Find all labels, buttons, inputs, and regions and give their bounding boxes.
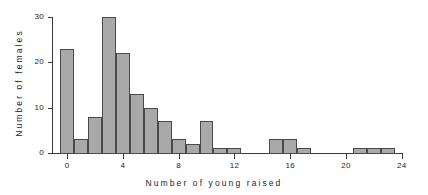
y-axis-title: Number of females <box>14 8 24 158</box>
x-axis-tick-label: 16 <box>279 161 301 170</box>
x-axis-tick-label: 20 <box>335 161 357 170</box>
bar <box>144 108 158 154</box>
bar <box>283 139 297 154</box>
x-axis-tick <box>123 154 124 159</box>
y-axis-tick <box>48 153 53 154</box>
bar <box>367 148 381 154</box>
bar <box>130 94 144 154</box>
bar <box>158 121 172 154</box>
x-axis-tick <box>290 154 291 159</box>
y-axis-tick-label: 0 <box>22 148 44 157</box>
bar <box>213 148 227 154</box>
y-axis-tick <box>48 108 53 109</box>
bar <box>102 17 116 154</box>
y-axis-tick <box>48 17 53 18</box>
y-axis-tick <box>48 62 53 63</box>
y-axis-tick-label: 20 <box>22 57 44 66</box>
histogram-figure: 010203004812162024 Number of females Num… <box>0 0 428 195</box>
y-axis-tick-label: 30 <box>22 12 44 21</box>
x-axis-tick-label: 8 <box>168 161 190 170</box>
bar <box>186 144 200 154</box>
x-axis-tick <box>179 154 180 159</box>
bar <box>227 148 241 154</box>
bar <box>269 139 283 154</box>
bar <box>353 148 367 154</box>
y-axis-line <box>52 17 53 154</box>
bar <box>74 139 88 154</box>
bar <box>297 148 311 154</box>
bar <box>88 117 102 154</box>
x-axis-tick <box>67 154 68 159</box>
bar <box>60 49 74 154</box>
x-axis-tick <box>234 154 235 159</box>
plot-area: 010203004812162024 <box>0 0 428 195</box>
x-axis-tick <box>346 154 347 159</box>
bar <box>172 139 186 154</box>
x-axis-tick-label: 0 <box>56 161 78 170</box>
x-axis-title: Number of young raised <box>0 178 428 188</box>
x-axis-tick-label: 4 <box>112 161 134 170</box>
x-axis-tick-label: 24 <box>391 161 413 170</box>
y-axis-tick-label: 10 <box>22 103 44 112</box>
x-axis-tick <box>402 154 403 159</box>
bar <box>200 121 214 154</box>
bar <box>381 148 395 154</box>
bar <box>116 53 130 154</box>
x-axis-tick-label: 12 <box>223 161 245 170</box>
